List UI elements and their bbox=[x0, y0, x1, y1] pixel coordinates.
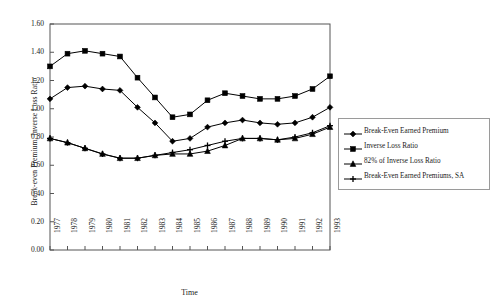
series-layer bbox=[47, 48, 333, 161]
legend-item: Break-Even Earned Premium bbox=[342, 124, 486, 139]
cross-marker-icon bbox=[342, 171, 364, 183]
legend-label: Break-Even Earned Premiums, SA bbox=[364, 172, 464, 181]
legend-label: Inverse Loss Ratio bbox=[364, 142, 418, 151]
chart-legend: Break-Even Earned PremiumInverse Loss Ra… bbox=[338, 118, 490, 190]
legend-item: 82% of Inverse Loss Ratio bbox=[342, 154, 486, 169]
square-marker-icon bbox=[342, 141, 364, 153]
chart-figure: Break-even Premium, Inverse Loss Ratio T… bbox=[0, 0, 492, 308]
legend-item: Break-Even Earned Premiums, SA bbox=[342, 169, 486, 184]
triangle-marker-icon bbox=[342, 156, 364, 168]
legend-label: 82% of Inverse Loss Ratio bbox=[364, 157, 441, 166]
diamond-marker-icon bbox=[342, 126, 364, 138]
legend-item: Inverse Loss Ratio bbox=[342, 139, 486, 154]
legend-label: Break-Even Earned Premium bbox=[364, 127, 449, 136]
x-tick-marks bbox=[50, 246, 330, 250]
